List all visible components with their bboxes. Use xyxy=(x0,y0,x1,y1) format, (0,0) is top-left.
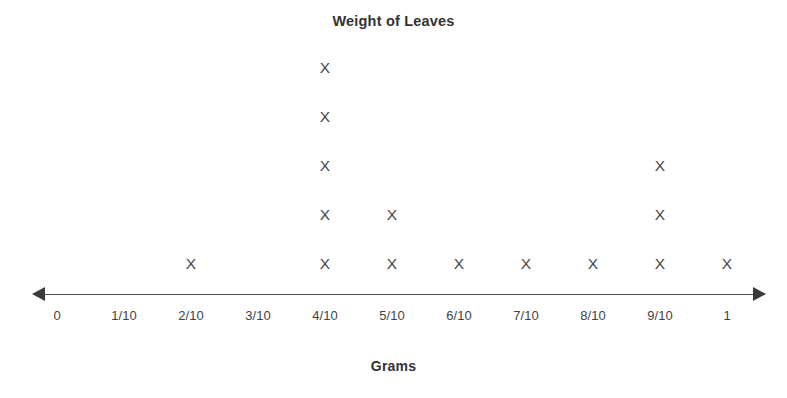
data-marker-x: X xyxy=(439,256,479,272)
x-axis-tick-label: 4/10 xyxy=(295,308,355,323)
axis-arrow-right-icon xyxy=(753,287,766,301)
marker-column: X xyxy=(171,0,211,294)
data-marker-x: X xyxy=(640,158,680,174)
x-axis-tick-label: 6/10 xyxy=(429,308,489,323)
x-axis xyxy=(0,286,787,304)
data-marker-x: X xyxy=(305,158,345,174)
axis-arrow-left-icon xyxy=(32,287,45,301)
data-marker-x: X xyxy=(573,256,613,272)
data-marker-x: X xyxy=(707,256,747,272)
data-marker-x: X xyxy=(372,256,412,272)
data-marker-x: X xyxy=(640,256,680,272)
data-marker-x: X xyxy=(305,109,345,125)
marker-column: X xyxy=(506,0,546,294)
marker-column: X xyxy=(707,0,747,294)
x-axis-tick-label: 1 xyxy=(697,308,757,323)
x-axis-tick-label: 1/10 xyxy=(94,308,154,323)
data-marker-x: X xyxy=(640,207,680,223)
marker-column: X xyxy=(439,0,479,294)
x-axis-tick-labels: 01/102/103/104/105/106/107/108/109/101 xyxy=(0,308,787,330)
x-axis-tick-label: 2/10 xyxy=(161,308,221,323)
x-axis-tick-label: 7/10 xyxy=(496,308,556,323)
data-marker-x: X xyxy=(305,60,345,76)
dot-plot-chart: Weight of Leaves XXXXXXXXXXXXXXX 01/102/… xyxy=(0,0,787,398)
x-axis-tick-label: 8/10 xyxy=(563,308,623,323)
marker-column: XXXXX xyxy=(305,0,345,294)
data-marker-x: X xyxy=(305,207,345,223)
x-axis-tick-label: 3/10 xyxy=(228,308,288,323)
axis-line xyxy=(44,294,756,296)
data-marker-x: X xyxy=(506,256,546,272)
data-marker-x: X xyxy=(305,256,345,272)
marker-column: XXX xyxy=(640,0,680,294)
plot-area: XXXXXXXXXXXXXXX xyxy=(0,0,787,294)
data-marker-x: X xyxy=(372,207,412,223)
marker-column: X xyxy=(573,0,613,294)
data-marker-x: X xyxy=(171,256,211,272)
x-axis-tick-label: 9/10 xyxy=(630,308,690,323)
x-axis-tick-label: 5/10 xyxy=(362,308,422,323)
x-axis-caption: Grams xyxy=(0,358,787,374)
x-axis-tick-label: 0 xyxy=(27,308,87,323)
marker-column: XX xyxy=(372,0,412,294)
